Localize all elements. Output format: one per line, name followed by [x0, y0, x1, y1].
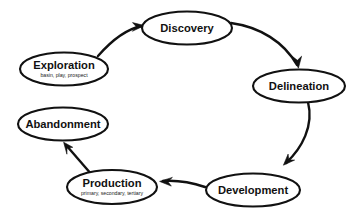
edge-discovery-to-delineation — [231, 23, 302, 68]
node-abandonment[interactable]: Abandonment — [18, 108, 108, 141]
node-development-label: Development — [218, 184, 289, 196]
node-production-label: Production — [82, 177, 141, 189]
edge-exploration-to-discovery — [98, 23, 145, 56]
node-production-sublabel: primary, secondary, tertiary — [81, 190, 143, 196]
node-exploration-sublabel: basin, play, prospect — [40, 72, 88, 78]
edge-path-delineation-development — [286, 102, 310, 163]
edge-path-production-abandonment — [66, 145, 92, 175]
edge-production-to-abandonment — [64, 142, 92, 175]
node-exploration[interactable]: Exploration basin, play, prospect — [20, 53, 108, 86]
lifecycle-diagram: Discovery Delineation Development Produc… — [0, 0, 354, 217]
node-production[interactable]: Production primary, secondary, tertiary — [67, 170, 157, 204]
node-discovery[interactable]: Discovery — [142, 12, 232, 45]
edge-development-to-production — [160, 177, 205, 187]
node-development[interactable]: Development — [206, 174, 300, 207]
edge-path-discovery-delineation — [231, 23, 297, 65]
node-abandonment-label: Abandonment — [25, 118, 100, 130]
edge-delineation-to-development — [283, 102, 309, 165]
node-discovery-label: Discovery — [160, 22, 214, 34]
edge-path-exploration-discovery — [98, 26, 142, 56]
node-delineation[interactable]: Delineation — [253, 70, 345, 103]
node-delineation-label: Delineation — [269, 80, 329, 92]
node-exploration-label: Exploration — [33, 59, 95, 71]
lifecycle-diagram-canvas: Discovery Delineation Development Produc… — [0, 0, 354, 217]
